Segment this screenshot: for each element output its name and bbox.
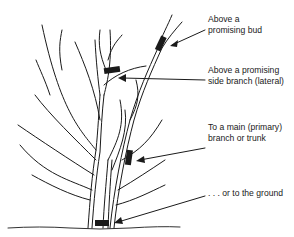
label-to-ground: . . . or to the ground <box>208 188 283 199</box>
shrub-illustration <box>0 0 294 237</box>
label-above-lateral: Above a promising side branch (lateral) <box>208 65 284 86</box>
cut-marker-lateral <box>104 66 121 74</box>
label-above-bud: Above a promising bud <box>208 14 262 35</box>
ground-line <box>8 227 180 229</box>
label-primary-branch: To a main (primary) branch or trunk <box>208 122 282 143</box>
cut-marker-ground <box>95 220 109 226</box>
